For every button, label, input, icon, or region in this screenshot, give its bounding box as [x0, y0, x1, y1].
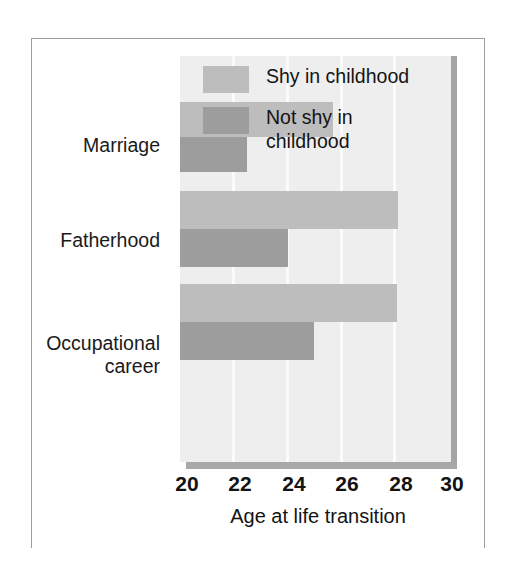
bar-occupational-shy	[180, 284, 397, 322]
bar-fatherhood-shy	[180, 191, 398, 229]
category-label-fatherhood: Fatherhood	[0, 229, 168, 252]
axis-line-right	[451, 56, 457, 468]
legend-label-not-shy: Not shy in childhood	[266, 105, 353, 153]
category-label-occupational-career: Occupational career	[0, 332, 168, 378]
xtick-26: 26	[317, 472, 377, 496]
xtick-24: 24	[264, 472, 324, 496]
bar-occupational-not-shy	[180, 322, 314, 360]
xtick-30: 30	[422, 472, 482, 496]
xtick-22: 22	[210, 472, 270, 496]
bar-fatherhood-not-shy	[180, 229, 288, 267]
axis-line-bottom	[186, 462, 457, 469]
category-label-marriage: Marriage	[0, 134, 168, 157]
gridline-28	[393, 56, 396, 462]
legend-label-shy: Shy in childhood	[266, 64, 409, 88]
legend-item-not-shy: Not shy in childhood	[203, 105, 353, 153]
xtick-20: 20	[157, 472, 217, 496]
legend-item-shy: Shy in childhood	[203, 64, 409, 93]
legend-swatch-not-shy-icon	[203, 107, 249, 134]
bar-chart: Shy in childhood Not shy in childhood Ma…	[0, 0, 506, 569]
x-axis-title: Age at life transition	[180, 505, 456, 528]
legend-swatch-shy-icon	[203, 66, 249, 93]
